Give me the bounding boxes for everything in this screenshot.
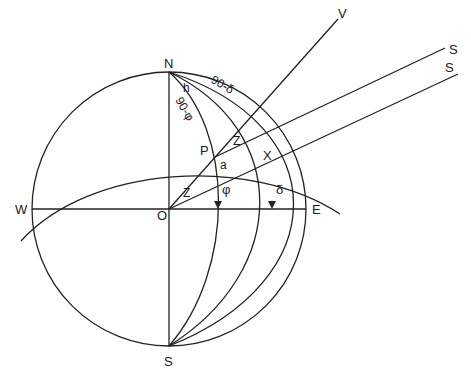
label-sun-ray-1: S xyxy=(449,42,458,57)
arrow-delta xyxy=(268,201,276,209)
label-north: N xyxy=(164,56,173,71)
label-declination: δ xyxy=(276,182,283,197)
label-codeclination: 90-δ xyxy=(209,72,237,96)
label-colatitude: 90-φ xyxy=(172,95,197,124)
label-angle-a: a xyxy=(220,158,227,172)
label-origin: O xyxy=(157,208,167,223)
label-zenith-angle-2: Z xyxy=(183,186,190,200)
label-west: W xyxy=(15,202,28,217)
label-south: S xyxy=(164,354,173,369)
sun-ray-1 xyxy=(215,48,445,157)
label-latitude: φ xyxy=(222,182,230,197)
label-east: E xyxy=(312,202,321,217)
label-pole: P xyxy=(200,143,209,158)
label-vertical: V xyxy=(338,6,347,21)
label-sun-ray-2: S xyxy=(445,60,454,75)
label-zenith-angle-1: Z xyxy=(233,134,240,148)
label-hour-angle: h xyxy=(183,81,190,95)
arrow-phi xyxy=(214,201,222,209)
celestial-sphere-diagram: N S E W O P X V S S h 90-φ 90-δ Z Z a φ … xyxy=(0,0,471,377)
sun-ray-2 xyxy=(169,74,458,209)
label-star: X xyxy=(263,148,272,163)
